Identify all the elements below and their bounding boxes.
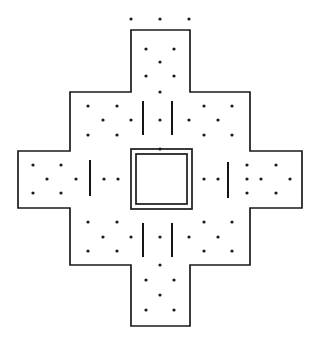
stipple-dot bbox=[158, 293, 161, 296]
stipple-dot bbox=[129, 17, 132, 20]
stipple-dot bbox=[129, 118, 132, 121]
stipple-dot bbox=[129, 235, 132, 238]
stipple-dot bbox=[216, 118, 219, 121]
stipple-dot bbox=[158, 60, 161, 63]
stipple-dot bbox=[115, 104, 118, 107]
stipple-dot bbox=[245, 177, 248, 180]
stipple-dot bbox=[202, 104, 205, 107]
stipple-dot bbox=[230, 220, 233, 223]
stipple-dot bbox=[216, 235, 219, 238]
stipple-dot bbox=[86, 104, 89, 107]
stipple-dot bbox=[102, 177, 105, 180]
stipple-dot bbox=[202, 177, 205, 180]
stipple-dot bbox=[216, 177, 219, 180]
stipple-dot bbox=[86, 220, 89, 223]
stipple-dot bbox=[144, 74, 147, 77]
stipple-dot bbox=[187, 235, 190, 238]
stipple-dot bbox=[158, 90, 161, 93]
stipple-dot bbox=[158, 147, 161, 150]
stipple-dot bbox=[259, 177, 262, 180]
stipple-dot bbox=[59, 163, 62, 166]
stipple-dot bbox=[144, 278, 147, 281]
stipple-dot bbox=[101, 118, 104, 121]
stipple-dot bbox=[245, 163, 248, 166]
stipple-dot bbox=[274, 163, 277, 166]
stipple-dot bbox=[245, 191, 248, 194]
stipple-dot bbox=[202, 220, 205, 223]
stipple-dot bbox=[115, 249, 118, 252]
central-square-inner-wall bbox=[136, 154, 187, 204]
stipple-dot bbox=[158, 118, 161, 121]
stipple-dot bbox=[144, 47, 147, 50]
stipple-dot bbox=[31, 191, 34, 194]
floor-plan-drawing bbox=[0, 0, 322, 349]
stipple-dot bbox=[158, 235, 161, 238]
stipple-dot bbox=[158, 17, 161, 20]
stipple-dot bbox=[172, 74, 175, 77]
stipple-dot bbox=[172, 278, 175, 281]
stipple-dot bbox=[116, 177, 119, 180]
stipple-dot bbox=[288, 177, 291, 180]
stipple-dot bbox=[115, 220, 118, 223]
stipple-dot bbox=[230, 133, 233, 136]
stipple-dot bbox=[45, 177, 48, 180]
stipple-dot bbox=[230, 249, 233, 252]
stipple-dot bbox=[31, 163, 34, 166]
stipple-dot bbox=[202, 249, 205, 252]
stipple-dot bbox=[144, 308, 147, 311]
stipple-dot bbox=[202, 133, 205, 136]
stipple-dot bbox=[230, 104, 233, 107]
stipple-dot bbox=[115, 133, 118, 136]
stipple-dot bbox=[187, 118, 190, 121]
stipple-dot bbox=[274, 191, 277, 194]
stipple-dot bbox=[158, 263, 161, 266]
stipple-dot bbox=[101, 235, 104, 238]
figure-root bbox=[0, 0, 322, 349]
stipple-dot bbox=[74, 177, 77, 180]
stipple-dot bbox=[59, 191, 62, 194]
stipple-dot bbox=[172, 308, 175, 311]
stipple-dot bbox=[86, 249, 89, 252]
stipple-dot bbox=[86, 133, 89, 136]
stipple-dot bbox=[187, 17, 190, 20]
stipple-dot bbox=[172, 47, 175, 50]
